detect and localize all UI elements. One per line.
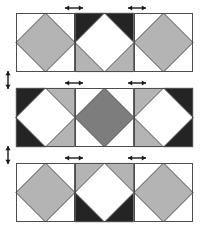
tile-r1c3: [134, 13, 193, 72]
tiling-svg-canvas: [0, 0, 213, 226]
tile-r3c1: [16, 163, 75, 222]
tile-r3c2: [75, 163, 134, 222]
tile-r2c3: [134, 88, 193, 147]
tile-r2c2: [75, 88, 134, 147]
tile-r1c1: [16, 13, 75, 72]
tile-r1c2: [75, 13, 134, 72]
tile-r3c3: [134, 163, 193, 222]
tile-r2c1: [16, 88, 75, 147]
tiles-layer: [16, 13, 193, 222]
tiling-figure: [0, 0, 213, 226]
